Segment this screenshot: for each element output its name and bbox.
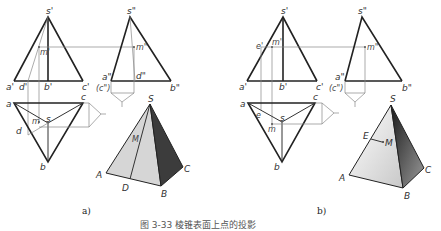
label-b: b	[40, 162, 46, 172]
label-c-b: c	[313, 92, 318, 102]
label-a-b: a	[240, 99, 246, 109]
panel-b: s' e' m' a' b' c' s" m" a" (c") b"	[239, 6, 432, 216]
label-a-prime: a'	[6, 82, 14, 92]
label-s-prime: s'	[46, 6, 53, 16]
label-b-dblprime: b"	[170, 83, 180, 93]
label-m-dblprime: m"	[136, 43, 147, 52]
panel-b-top-view: a c s e m b	[240, 92, 339, 172]
panel-a: s' m' a' d' b' c' s" m" a" (c") d" b"	[6, 6, 191, 216]
label-c-dblprime-hidden-b: (c")	[329, 84, 343, 93]
label-M-b: M	[385, 138, 393, 148]
panel-a-iso-view: S A B C M D	[95, 94, 191, 199]
label-s-b: s	[280, 113, 285, 123]
label-S-b: S	[390, 94, 396, 104]
projection-figure: s' m' a' d' b' c' s" m" a" (c") d" b"	[0, 0, 441, 231]
label-E-b: E	[363, 131, 369, 141]
label-b-prime: b'	[44, 82, 52, 92]
label-m-b: m	[268, 125, 276, 134]
label-m: m	[32, 117, 40, 126]
label-S: S	[148, 94, 154, 104]
label-C-b: C	[425, 165, 432, 175]
label-B: B	[161, 189, 167, 199]
label-d-prime: d'	[19, 82, 27, 92]
label-a-dblprime: a"	[102, 72, 112, 82]
label-A: A	[95, 170, 102, 180]
label-s: s	[46, 114, 51, 124]
label-M: M	[132, 135, 139, 144]
label-D: D	[122, 183, 129, 193]
label-m-prime-b: m'	[272, 38, 282, 47]
label-a-dblprime-b: a"	[335, 72, 345, 82]
label-s-dblprime: s"	[127, 6, 136, 16]
label-c-prime-b: c'	[316, 82, 323, 92]
label-b-prime-b: b'	[279, 82, 287, 92]
label-e-b: e	[256, 111, 261, 120]
panel-a-side-view: s" m" a" (c") d" b"	[96, 6, 180, 107]
label-e-prime: e'	[256, 42, 263, 51]
panel-b-side-view: s" m" a" (c") b"	[329, 6, 412, 107]
label-B-b: B	[404, 191, 410, 201]
figure-caption: 图 3-33 棱锥表面上点的投影	[140, 219, 256, 230]
label-b-b: b	[274, 162, 280, 172]
panel-a-label: a)	[82, 206, 91, 216]
label-m-prime: m'	[40, 48, 50, 57]
label-c: c	[81, 92, 86, 102]
label-a: a	[6, 99, 12, 109]
label-d: d	[16, 126, 22, 136]
label-s-prime-b: s'	[281, 6, 288, 16]
panel-a-top-view: a c s m d b	[6, 92, 106, 172]
label-c-dblprime-hidden: (c")	[96, 84, 110, 93]
panel-b-label: b)	[317, 206, 326, 216]
label-c-prime: c'	[82, 82, 89, 92]
label-m-dblprime-b: m"	[367, 43, 378, 52]
label-C: C	[184, 164, 191, 174]
label-a-prime-b: a'	[239, 82, 247, 92]
label-d-dblprime: d"	[136, 71, 146, 81]
label-A-b: A	[338, 173, 345, 183]
label-b-dblprime-b: b"	[402, 83, 412, 93]
label-s-dblprime-b: s"	[358, 6, 367, 16]
panel-b-iso-view: S A B C E M	[338, 94, 432, 201]
